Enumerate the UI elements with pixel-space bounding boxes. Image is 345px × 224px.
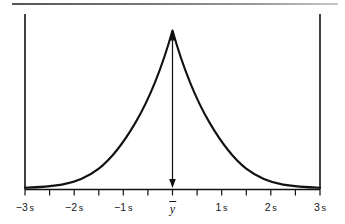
mean-symbol: y [169,203,177,215]
axis-tick-label-minus3s: −3s [16,202,35,213]
tick-value: −1 [114,201,126,213]
arrow-head-down-icon [169,179,176,188]
normal-distribution-plot [0,0,345,224]
axis-tick-label-plus1s: 1s [216,202,228,213]
tick-unit: s [30,203,35,213]
tick-value: 1 [216,201,222,213]
axis-tick-label-minus2s: −2s [65,202,84,213]
tick-unit: s [321,203,326,213]
axis-tick-label-mean: y [169,201,177,215]
axis-tick-label-plus2s: 2s [265,202,277,213]
axis-tick-label-minus1s: −1s [114,202,133,213]
tick-value: −3 [16,201,28,213]
figure-container: −3s −2s −1s y 1s 2s 3s [0,0,345,224]
mean-height-arrow [169,32,176,189]
axis-tick-marks [25,190,320,196]
tick-value: −2 [65,201,77,213]
tick-value: 2 [265,201,271,213]
tick-unit: s [79,203,84,213]
tick-unit: s [272,203,277,213]
tick-value: 3 [314,201,320,213]
tick-unit: s [223,203,228,213]
tick-unit: s [128,203,133,213]
axis-tick-label-plus3s: 3s [314,202,326,213]
